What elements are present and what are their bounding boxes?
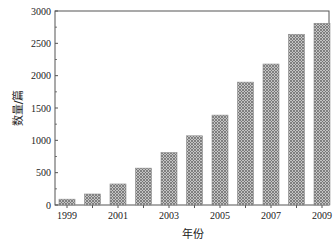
bar-chart: 050010001500200025003000 199920012003200… <box>0 0 336 244</box>
x-tick-label: 2009 <box>312 210 332 221</box>
y-tick-label: 1000 <box>31 135 51 146</box>
y-tick-label: 3000 <box>31 6 51 17</box>
bar-2007 <box>263 64 279 205</box>
y-tick-label: 500 <box>36 167 51 178</box>
x-axis-label: 年份 <box>182 227 204 241</box>
bars <box>59 23 330 205</box>
y-tick-label: 2500 <box>31 38 51 49</box>
bar-2008 <box>289 34 305 205</box>
y-tick-label: 2000 <box>31 70 51 81</box>
y-axis-label: 数量/篇 <box>11 90 25 127</box>
y-tick-label: 0 <box>46 200 51 211</box>
bar-2002 <box>136 168 152 205</box>
y-axis: 050010001500200025003000 <box>31 6 58 211</box>
bar-2005 <box>212 115 228 205</box>
x-tick-label: 1999 <box>57 210 77 221</box>
bar-2003 <box>161 153 177 205</box>
x-tick-label: 2003 <box>159 210 179 221</box>
bar-2006 <box>238 82 254 205</box>
x-axis: 199920012003200520072009 <box>57 205 332 221</box>
x-tick-label: 2005 <box>210 210 230 221</box>
bar-2009 <box>314 23 330 205</box>
x-tick-label: 2007 <box>261 210 281 221</box>
bar-2000 <box>85 194 101 205</box>
y-tick-label: 1500 <box>31 103 51 114</box>
bar-2004 <box>187 136 203 205</box>
x-tick-label: 2001 <box>108 210 128 221</box>
bar-2001 <box>110 184 126 205</box>
bar-1999 <box>59 199 75 205</box>
